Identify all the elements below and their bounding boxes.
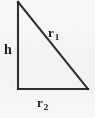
right-triangle-figure: h r1 r2 [0, 0, 95, 118]
label-radius-r1: r1 [48, 26, 58, 39]
label-height-h: h [4, 43, 12, 57]
label-h-text: h [4, 42, 12, 57]
label-radius-r2: r2 [37, 96, 47, 109]
label-r2-subscript: 2 [44, 102, 49, 112]
triangle-drawing [0, 0, 95, 118]
label-r1-base: r [48, 25, 54, 40]
label-r2-base: r [37, 95, 43, 110]
hypotenuse-line [18, 2, 88, 89]
label-r1-subscript: 1 [55, 32, 60, 42]
